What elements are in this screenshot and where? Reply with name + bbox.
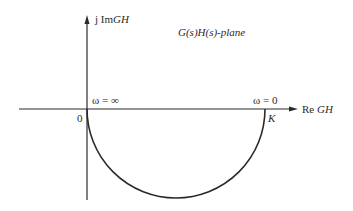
origin-label: 0 (77, 112, 83, 124)
omega-zero-label: ω = 0 (253, 94, 278, 106)
imaginary-axis-arrow-icon (85, 15, 90, 24)
omega-infinity-label: ω = ∞ (92, 94, 119, 106)
real-axis-label: Re GH (302, 103, 334, 115)
imaginary-axis-label: j ImGH (94, 13, 130, 25)
k-label: K (267, 112, 276, 124)
nyquist-semicircle (87, 109, 265, 198)
nyquist-diagram: j ImGH G(s)H(s)-plane ω = ∞ ω = 0 0 K Re… (0, 0, 353, 211)
plane-label: G(s)H(s)-plane (178, 26, 245, 39)
real-axis-arrow-icon (289, 107, 298, 112)
